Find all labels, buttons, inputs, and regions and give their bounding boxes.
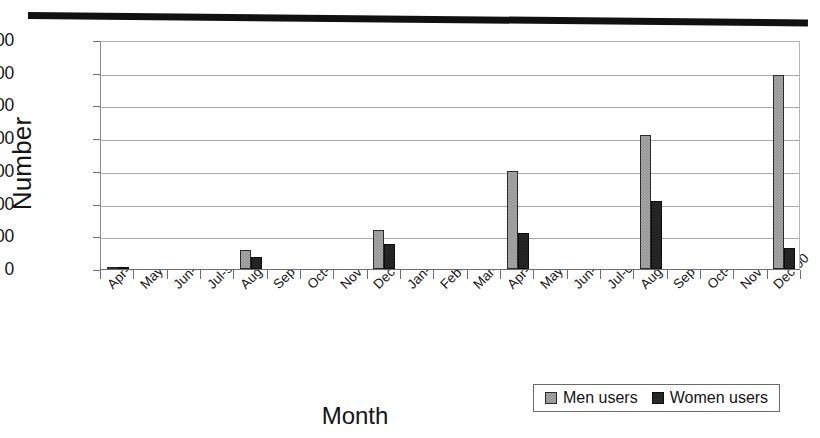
x-tick-mark	[100, 270, 101, 279]
y-tick-label: 300	[0, 163, 14, 181]
y-tick-label: 600	[0, 65, 14, 83]
y-tick-label: 0	[0, 261, 14, 279]
y-tick-label: 500	[0, 97, 14, 115]
bar-men-aug-99	[240, 250, 251, 269]
y-tick-label: 100	[0, 228, 14, 246]
gridline	[101, 173, 799, 174]
x-axis-title: Month	[265, 402, 445, 430]
chart-legend: Men users Women users	[533, 384, 780, 412]
bar-men-apr-99	[107, 267, 118, 270]
legend-item-women[interactable]: Women users	[652, 389, 768, 407]
bar-men-apr-00	[507, 171, 518, 269]
men-swatch-icon	[545, 392, 557, 404]
plot-area	[100, 41, 800, 270]
y-tick-label: 200	[0, 196, 14, 214]
bar-women-apr-99	[118, 267, 129, 270]
gridline	[101, 75, 799, 76]
bar-women-apr-00	[518, 233, 529, 269]
gridline	[101, 238, 799, 239]
bar-women-aug-00	[651, 201, 662, 269]
gridline	[101, 140, 799, 141]
legend-label-men: Men users	[563, 389, 638, 407]
y-tick-label: 400	[0, 130, 14, 148]
bar-women-aug-99	[251, 257, 262, 269]
women-swatch-icon	[652, 392, 664, 404]
bar-women-dec-99	[384, 244, 395, 269]
gridline	[101, 206, 799, 207]
gridline	[101, 107, 799, 108]
legend-label-women: Women users	[670, 389, 768, 407]
bar-men-dec-00	[773, 75, 784, 269]
bar-men-dec-99	[373, 230, 384, 269]
bar-chart: Number 0100200300400500600700 Apr-99May-…	[0, 0, 820, 438]
bar-men-aug-00	[640, 135, 651, 269]
bar-women-dec-00	[784, 248, 795, 269]
y-tick-label: 700	[0, 32, 14, 50]
legend-item-men[interactable]: Men users	[545, 389, 638, 407]
